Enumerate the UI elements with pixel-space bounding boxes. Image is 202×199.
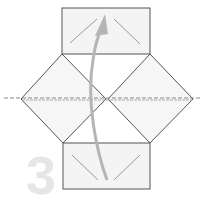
bottom-flap [63, 143, 150, 189]
origami-diagram [0, 0, 202, 199]
